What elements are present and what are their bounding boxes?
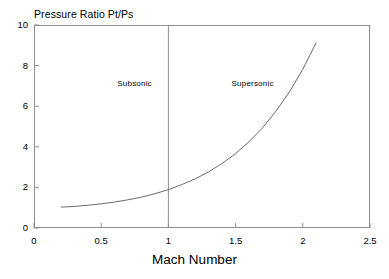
- pressure-ratio-curve: [61, 42, 316, 207]
- y-tick-label: 8: [6, 60, 28, 71]
- y-axis-ticks: [34, 25, 39, 228]
- y-tick-label: 6: [6, 100, 28, 111]
- x-axis-title: Mach Number: [0, 252, 389, 267]
- x-tick-label: 2: [288, 235, 318, 246]
- region-annotation: Supersonic: [232, 79, 274, 88]
- y-tick-label: 0: [6, 222, 28, 233]
- y-tick-label: 4: [6, 141, 28, 152]
- x-tick-label: 2.5: [355, 235, 385, 246]
- region-annotation: Subsonic: [117, 79, 152, 88]
- x-tick-label: 1.5: [221, 235, 251, 246]
- y-tick-label: 2: [6, 181, 28, 192]
- x-tick-label: 0: [19, 235, 49, 246]
- pressure-ratio-chart: Pressure Ratio Pt/Ps 0246810 00.511.522.…: [0, 0, 389, 279]
- x-axis-ticks: [34, 223, 370, 228]
- y-tick-label: 10: [6, 19, 28, 30]
- x-tick-label: 1: [153, 235, 183, 246]
- x-tick-label: 0.5: [86, 235, 116, 246]
- chart-svg-layer: [0, 0, 389, 279]
